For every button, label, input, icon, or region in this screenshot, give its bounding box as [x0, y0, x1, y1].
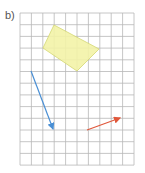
red-vector [87, 118, 120, 130]
blue-vector [31, 71, 53, 129]
grid-lines [20, 13, 134, 165]
grid-diagram [0, 0, 145, 173]
yellow-rectangle [43, 25, 99, 71]
vectors [31, 71, 120, 130]
